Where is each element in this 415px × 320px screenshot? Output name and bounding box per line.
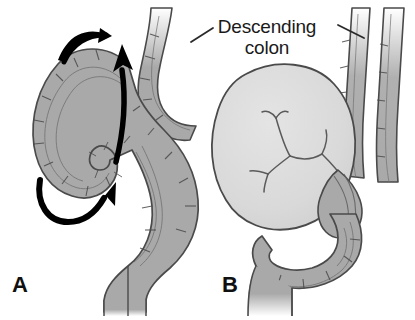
panel-b-rectum-limb xyxy=(248,214,362,316)
panel-label-a: A xyxy=(12,272,28,298)
figure-canvas: Descending colon A B xyxy=(0,0,415,320)
descending-colon-label: Descending colon xyxy=(196,16,338,58)
panel-label-b: B xyxy=(222,272,238,298)
